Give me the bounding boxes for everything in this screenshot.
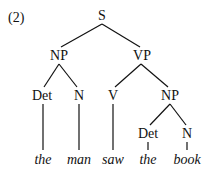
edge-np2-det bbox=[150, 104, 170, 125]
node-det-object: Det bbox=[138, 127, 158, 141]
word-book: book bbox=[173, 153, 200, 167]
node-np-object: NP bbox=[161, 89, 179, 103]
tree-edges bbox=[0, 0, 211, 172]
node-v: V bbox=[108, 89, 118, 103]
word-saw: saw bbox=[102, 153, 124, 167]
word-the: the bbox=[34, 153, 51, 167]
example-number: (2) bbox=[8, 11, 24, 25]
word-man: man bbox=[67, 153, 91, 167]
edge-vp-np bbox=[141, 64, 168, 87]
node-n-object: N bbox=[182, 127, 192, 141]
node-np: NP bbox=[50, 49, 68, 63]
node-det: Det bbox=[32, 89, 52, 103]
node-n: N bbox=[74, 89, 84, 103]
edge-s-np bbox=[61, 24, 102, 47]
edge-np-det bbox=[44, 64, 59, 87]
edge-np2-n bbox=[170, 104, 186, 125]
node-s: S bbox=[98, 9, 106, 23]
edge-np-n bbox=[59, 64, 77, 87]
node-vp: VP bbox=[133, 49, 151, 63]
edge-vp-v bbox=[115, 64, 141, 87]
edge-s-vp bbox=[102, 24, 140, 47]
word-the-2: the bbox=[139, 153, 156, 167]
